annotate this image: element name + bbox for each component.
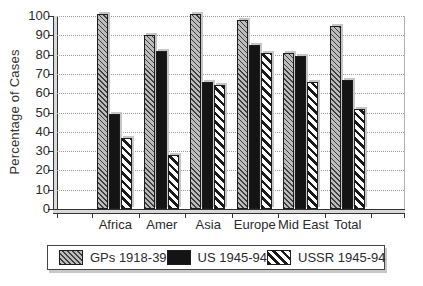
bar (190, 14, 201, 209)
x-tick (371, 214, 372, 218)
bar (97, 14, 108, 209)
x-axis-label: Total (325, 217, 372, 232)
y-tick-label: 30 (20, 144, 50, 158)
legend-label-ussr: USSR 1945-94 (298, 250, 385, 265)
bar (295, 56, 306, 209)
bar (307, 82, 318, 209)
bar (202, 82, 213, 209)
y-tick-label: 0 (20, 202, 50, 216)
legend-label-us: US 1945-94 (198, 250, 267, 265)
x-tick (278, 214, 279, 218)
bar (261, 53, 272, 209)
bar (214, 85, 225, 209)
bar-chart-figure: Percentage of Cases 01020304050607080901… (0, 0, 423, 286)
x-tick (57, 214, 58, 218)
x-tick (185, 214, 186, 218)
bar (168, 155, 179, 209)
y-tick-label: 90 (20, 28, 50, 42)
x-tick (92, 214, 93, 218)
x-tick (139, 214, 140, 218)
bar (283, 53, 294, 209)
bar (144, 35, 155, 209)
bar (121, 138, 132, 209)
legend-item-ussr: USSR 1945-94 (267, 250, 385, 265)
legend-label-gps: GPs 1918-39 (90, 250, 167, 265)
y-tick-label: 80 (20, 48, 50, 62)
plot-area (57, 16, 405, 209)
x-axis-label: Mid East (278, 217, 325, 232)
x-axis-label: Asia (185, 217, 232, 232)
y-tick-label: 10 (20, 183, 50, 197)
bar-group (278, 16, 325, 209)
x-axis-label: Africa (92, 217, 139, 232)
y-tick-label: 70 (20, 67, 50, 81)
bar-group (92, 16, 139, 209)
bar (249, 45, 260, 209)
bar (237, 20, 248, 209)
legend-swatch-gray-hatch (59, 250, 83, 265)
bar (330, 26, 341, 209)
legend-swatch-solid-black (167, 250, 191, 265)
bar (342, 80, 353, 209)
bar (156, 51, 167, 209)
bar (109, 114, 120, 209)
bar-group (325, 16, 372, 209)
bar (354, 109, 365, 209)
bar-group (185, 16, 232, 209)
y-tick-label: 50 (20, 106, 50, 120)
legend: GPs 1918-39 US 1945-94 USSR 1945-94 (47, 245, 385, 270)
x-axis-label: Europe (232, 217, 279, 232)
y-tick-label: 40 (20, 125, 50, 139)
legend-swatch-white-hatch (267, 250, 291, 265)
y-tick-label: 100 (20, 9, 50, 23)
legend-item-gps: GPs 1918-39 (59, 250, 167, 265)
y-tick-label: 60 (20, 86, 50, 100)
x-tick (404, 214, 405, 218)
legend-item-us: US 1945-94 (167, 250, 267, 265)
bar-group (139, 16, 186, 209)
y-tick-label: 20 (20, 163, 50, 177)
x-axis-line (53, 209, 405, 214)
bar-group (232, 16, 279, 209)
x-axis-label: Amer (139, 217, 186, 232)
x-tick (232, 214, 233, 218)
x-tick (325, 214, 326, 218)
